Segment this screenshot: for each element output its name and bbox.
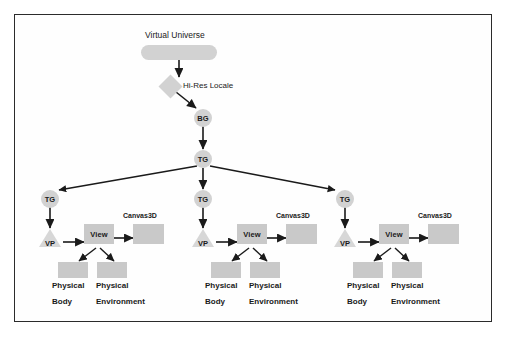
branch-1-view-label: View (237, 224, 267, 244)
branch-2-tg-label: TG (336, 190, 354, 208)
branch-2-physical-environment-label-line2: Environment (391, 297, 440, 306)
branch-1-physical-environment-label-line2: Environment (249, 297, 298, 306)
branch-2-physical-body-label-line1: Physical (347, 281, 379, 290)
branch-0-tg-node[interactable]: TG (41, 190, 59, 208)
bg-node-label: BG (194, 109, 212, 127)
branch-2-physical-body-label-line2: Body (347, 297, 367, 306)
branch-1-vp-label: VP (190, 239, 216, 248)
branch-1-physical-body-node[interactable] (211, 262, 241, 278)
branch-1-canvas3d-label: Canvas3D (276, 212, 310, 219)
branch-2-tg-node[interactable]: TG (336, 190, 354, 208)
branch-2-canvas3d-label: Canvas3D (418, 212, 452, 219)
branch-1-physical-environment-node[interactable] (250, 262, 280, 278)
branch-1-view-node[interactable]: View (237, 224, 267, 244)
branch-2-view-node[interactable]: View (379, 224, 409, 244)
branch-1-physical-environment-label-line1: Physical (249, 281, 281, 290)
bg-node[interactable]: BG (194, 109, 212, 127)
virtual-universe-label: Virtual Universe (145, 30, 205, 40)
branch-1-canvas3d-node[interactable] (286, 224, 317, 244)
branch-2-physical-environment-node[interactable] (392, 262, 422, 278)
branch-0-physical-body-label-line1: Physical (52, 281, 84, 290)
virtual-universe-node[interactable] (141, 45, 217, 60)
branch-1-tg-label: TG (194, 190, 212, 208)
branch-0-physical-environment-label-line1: Physical (96, 281, 128, 290)
branch-0-physical-environment-node[interactable] (97, 262, 127, 278)
branch-0-physical-body-label-line2: Body (52, 297, 72, 306)
branch-1-physical-body-label-line1: Physical (205, 281, 237, 290)
branch-0-tg-label: TG (41, 190, 59, 208)
branch-1-tg-node[interactable]: TG (194, 190, 212, 208)
hi-res-locale-label: Hi-Res Locale (183, 81, 233, 90)
branch-0-physical-environment-label-line2: Environment (96, 297, 145, 306)
branch-0-physical-body-node[interactable] (58, 262, 88, 278)
branch-0-view-node[interactable]: View (84, 224, 114, 244)
branch-0-canvas3d-label: Canvas3D (123, 212, 157, 219)
tg-root-node[interactable]: TG (194, 150, 212, 168)
branch-1-physical-body-label-line2: Body (205, 297, 225, 306)
scene-graph-diagram: Virtual Universe Hi-Res Locale BG TG TG … (0, 0, 510, 339)
branch-0-view-label: View (84, 224, 114, 244)
branch-0-vp-label: VP (37, 239, 63, 248)
tg-root-node-label: TG (194, 150, 212, 168)
branch-2-physical-body-node[interactable] (353, 262, 383, 278)
branch-2-canvas3d-node[interactable] (428, 224, 459, 244)
branch-2-vp-label: VP (332, 239, 358, 248)
branch-2-view-label: View (379, 224, 409, 244)
branch-2-physical-environment-label-line1: Physical (391, 281, 423, 290)
branch-0-canvas3d-node[interactable] (133, 224, 164, 244)
